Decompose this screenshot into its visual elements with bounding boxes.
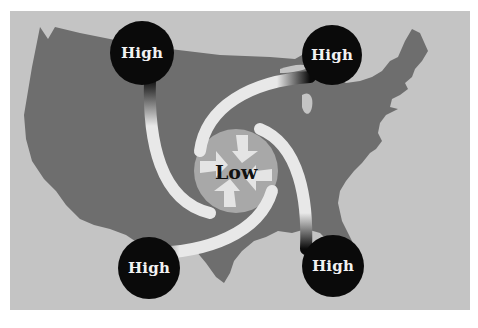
- high-node-northwest: High: [110, 21, 174, 85]
- high-label: High: [311, 46, 353, 64]
- diagram-frame: High High High High Low: [10, 11, 470, 310]
- high-label: High: [121, 44, 163, 62]
- high-node-northeast: High: [302, 25, 362, 85]
- great-lakes: [302, 94, 312, 114]
- high-node-southeast: High: [302, 235, 364, 297]
- caption-strip: [0, 312, 478, 328]
- high-label: High: [128, 259, 170, 277]
- high-label: High: [312, 257, 354, 275]
- low-label: Low: [215, 161, 257, 183]
- high-node-southwest: High: [118, 237, 180, 299]
